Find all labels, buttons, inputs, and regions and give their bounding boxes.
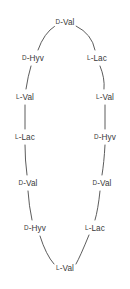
bond-r5-r6 (95, 191, 100, 220)
bond-layer (0, 0, 130, 289)
residue-label-r1: D-Val (54, 17, 75, 26)
residue-name: Val (26, 179, 38, 188)
bond-r11-r12 (26, 66, 31, 89)
bond-r9-r10 (25, 145, 27, 175)
residue-name: Lac (91, 224, 105, 233)
residue-label-r11: L-Val (15, 92, 35, 101)
residue-name: Hyv (102, 133, 116, 142)
ring-diagram: D-ValL-LacL-ValD-HyvD-ValL-LacL-ValD-Hyv… (0, 0, 130, 289)
residue-name: Val (102, 93, 114, 102)
residue-label-r12: D-Hyv (21, 53, 45, 62)
residue-label-r7: L-Val (55, 263, 75, 272)
residue-name: Lac (93, 54, 107, 63)
bond-r1-r2 (76, 26, 95, 50)
residue-name: Val (62, 264, 74, 273)
residue-name: Val (100, 179, 112, 188)
bond-r2-r3 (100, 66, 104, 89)
residue-name: Lac (21, 133, 35, 142)
bond-r7-r8 (40, 236, 54, 264)
bond-r8-r9 (28, 191, 32, 220)
residue-name: Val (63, 18, 75, 27)
residue-label-r6: L-Lac (84, 223, 106, 232)
residue-name: Val (22, 93, 34, 102)
residue-label-r8: D-Hyv (23, 223, 47, 232)
residue-name: Hyv (30, 54, 44, 63)
bond-r12-r1 (38, 26, 55, 50)
residue-name: Hyv (32, 224, 46, 233)
residue-label-r5: D-Val (91, 178, 112, 187)
residue-label-r9: D-Val (17, 178, 38, 187)
residue-label-r10: L-Lac (14, 132, 36, 141)
residue-label-r3: L-Val (95, 92, 115, 101)
bond-r4-r5 (102, 145, 105, 175)
residue-label-r4: D-Hyv (93, 132, 117, 141)
residue-label-r2: L-Lac (86, 53, 108, 62)
bond-r6-r7 (76, 235, 89, 264)
